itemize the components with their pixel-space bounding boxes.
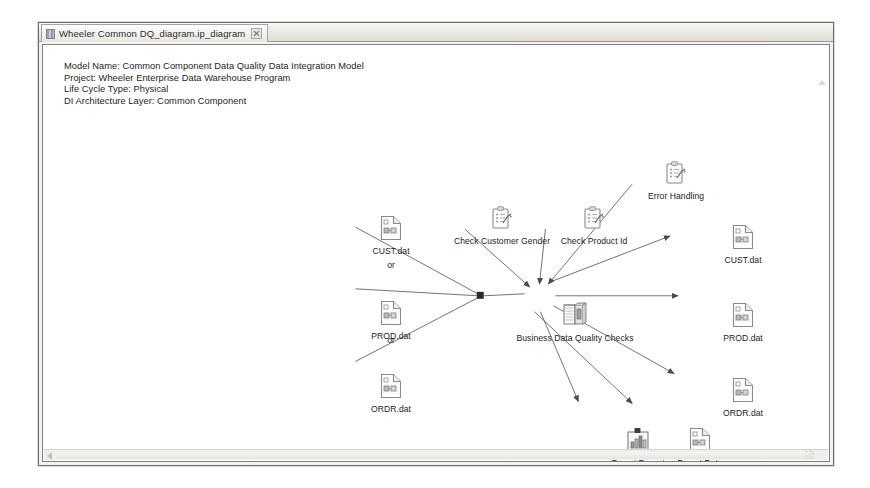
file-icon [380,215,402,245]
close-icon[interactable] [251,28,262,39]
node-label: PROD.dat [723,333,763,343]
app-root: Wheeler Common DQ_diagram.ip_diagram Mod… [0,0,870,488]
tab-label: Wheeler Common DQ_diagram.ip_diagram [59,29,245,39]
horizontal-scrollbar[interactable] [44,449,828,460]
tab-diagram[interactable]: Wheeler Common DQ_diagram.ip_diagram [41,24,268,42]
diagram-canvas[interactable]: Model Name: Common Component Data Qualit… [43,45,829,461]
node-label: Check Product Id [561,236,628,246]
clipboard-check-icon [490,205,514,235]
file-icon [732,377,754,407]
diagram-window: Wheeler Common DQ_diagram.ip_diagram Mod… [38,22,834,466]
diagram-canvas-wrapper: Model Name: Common Component Data Qualit… [42,44,830,462]
meta-line-lifecycle: Life Cycle Type: Physical [64,84,364,96]
file-icon [732,302,754,332]
connector-lines [43,45,829,461]
resize-grip-icon[interactable] [805,450,814,459]
node-label: Business Data Quality Checks [517,333,634,343]
node-label: CUST.dat [724,255,761,265]
tab-strip: Wheeler Common DQ_diagram.ip_diagram [39,23,833,42]
meta-line-model-name: Model Name: Common Component Data Qualit… [64,61,364,73]
or-separator-1: or [387,260,395,270]
ledger-icon [561,300,589,332]
scroll-up-icon[interactable] [818,79,827,86]
node-label: Check Customer Gender [454,236,550,246]
file-icon [732,224,754,254]
file-icon [380,300,402,330]
diagram-icon [46,29,55,39]
clipboard-check-icon [582,205,606,235]
file-icon [380,373,402,403]
node-label: CUST.dat [372,246,409,256]
clipboard-check-icon [664,160,688,190]
scrollbar-track[interactable] [56,452,816,459]
node-label: ORDR.dat [723,408,763,418]
node-label: Error Handling [648,191,704,201]
or-separator-2: or [387,335,395,345]
scroll-left-icon[interactable] [45,451,54,460]
meta-line-project: Project: Wheeler Enterprise Data Warehou… [64,73,364,85]
node-label: ORDR.dat [371,404,411,414]
model-metadata: Model Name: Common Component Data Qualit… [64,61,364,107]
meta-line-architecture: DI Architecture Layer: Common Component [64,96,364,108]
